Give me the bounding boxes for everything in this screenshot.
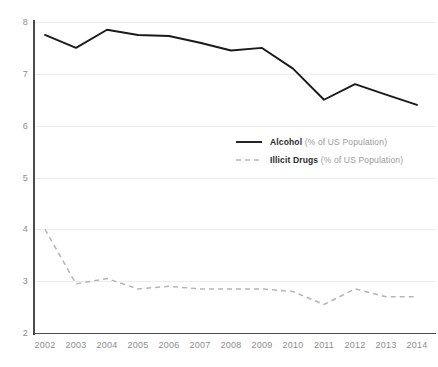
legend-swatch-solid-icon	[236, 137, 262, 147]
line-chart: 2345678 20022003200420052006200720082009…	[0, 0, 438, 367]
series-layer	[0, 0, 438, 367]
legend-swatch-dashed-icon	[236, 155, 262, 165]
series-line-illicit-drugs	[45, 229, 417, 304]
legend-item-illicit-drugs: Illicit Drugs (% of US Population)	[236, 151, 403, 169]
series-line-alcohol	[45, 30, 417, 105]
legend-series-name-alcohol: Alcohol	[270, 137, 302, 147]
legend-label-illicit-drugs: Illicit Drugs (% of US Population)	[270, 155, 403, 165]
legend-series-unit-illicit-drugs: (% of US Population)	[321, 155, 403, 165]
legend-series-name-illicit-drugs: Illicit Drugs	[270, 155, 318, 165]
chart-legend: Alcohol (% of US Population) Illicit Dru…	[236, 133, 403, 169]
legend-series-unit-alcohol: (% of US Population)	[305, 137, 387, 147]
legend-label-alcohol: Alcohol (% of US Population)	[270, 137, 387, 147]
legend-item-alcohol: Alcohol (% of US Population)	[236, 133, 403, 151]
